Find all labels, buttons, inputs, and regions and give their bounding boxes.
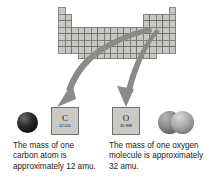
element-tile-carbon[interactable]: C 12.011 bbox=[51, 107, 79, 135]
element-tile-oxygen[interactable]: O 15.999 bbox=[112, 107, 140, 135]
periodic-table-cells bbox=[59, 8, 176, 59]
caption-carbon: The mass of one carbon atom is approxima… bbox=[13, 141, 99, 172]
oxygen-molecule-spheres bbox=[158, 111, 194, 134]
arrow-to-oxygen-head bbox=[117, 86, 134, 107]
atomic-mass-figure: C 12.011 O 15.999 The mass of one carbon… bbox=[0, 0, 209, 186]
caption-oxygen: The mass of one oxygen molecule is appro… bbox=[109, 141, 207, 172]
carbon-atom-sphere bbox=[17, 112, 38, 133]
periodic-table-diagram bbox=[58, 7, 176, 59]
element-mass-oxygen: 15.999 bbox=[120, 123, 132, 129]
oxygen-sphere-right bbox=[171, 111, 194, 134]
element-symbol-oxygen: O bbox=[123, 113, 130, 123]
element-mass-carbon: 12.011 bbox=[59, 123, 71, 129]
element-symbol-carbon: C bbox=[62, 113, 68, 123]
arrow-to-carbon-head bbox=[57, 83, 76, 107]
